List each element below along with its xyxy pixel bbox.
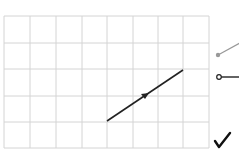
grid	[4, 16, 209, 148]
ray-tool-button[interactable]	[217, 75, 239, 80]
line-tool-button[interactable]	[216, 43, 239, 57]
check-icon[interactable]	[215, 133, 230, 147]
graph-canvas[interactable]	[0, 0, 239, 157]
